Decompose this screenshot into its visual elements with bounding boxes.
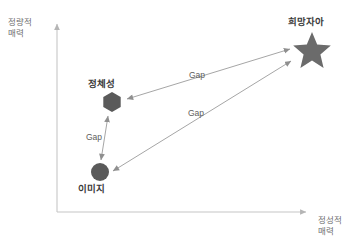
gap-connector-identity-desired: [127, 49, 290, 99]
desired-self-node-label: 희망자아: [288, 14, 324, 28]
desired-self-star-marker: [293, 32, 331, 68]
x-axis-label-line2: 매력: [318, 226, 343, 237]
x-axis-label: 정성적 매력: [318, 215, 343, 237]
identity-node-label: 정체성: [88, 76, 115, 90]
gap-label-image-identity: Gap: [86, 132, 102, 142]
gap-label-identity-desired: Gap: [189, 70, 205, 80]
diagram-graphics: [0, 0, 358, 247]
diagram-canvas: 정량적 매력 정성적 매력 정체성 이미지 희망자아 Gap Gap Gap: [0, 0, 358, 247]
x-axis-label-line1: 정성적: [318, 215, 343, 226]
y-axis-label: 정량적 매력: [8, 17, 33, 39]
y-axis-label-line2: 매력: [8, 28, 33, 39]
image-circle-marker: [91, 163, 109, 181]
identity-hexagon-marker: [103, 92, 120, 112]
node-shape-group: [91, 32, 331, 181]
image-node-label: 이미지: [78, 181, 105, 195]
gap-label-image-desired: Gap: [188, 108, 204, 118]
y-axis-label-line1: 정량적: [8, 17, 33, 27]
